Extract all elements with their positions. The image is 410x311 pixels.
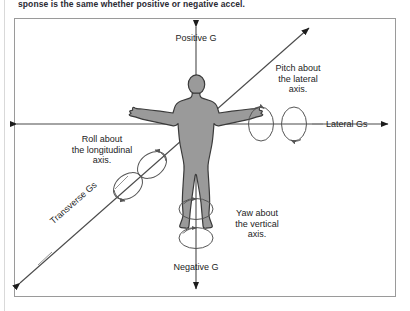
label-pitch-line1: Pitch about <box>259 63 337 74</box>
label-yaw-line3: axis. <box>219 229 295 240</box>
label-positive-g: Positive G <box>152 33 240 44</box>
label-lateral-gs: Lateral Gs <box>326 119 368 130</box>
label-pitch-line2: the lateral <box>259 74 337 85</box>
figure-page: sponse is the same whether positive or n… <box>0 0 410 311</box>
label-roll-line1: Roll about <box>52 134 152 145</box>
figure-head <box>188 75 204 94</box>
transverse-label-leader-b <box>115 176 128 189</box>
yaw-arrow-lower <box>183 228 197 234</box>
label-yaw-line1: Yaw about <box>219 208 295 219</box>
label-pitch-block: Pitch about the lateral axis. <box>259 63 337 95</box>
label-yaw-line2: the vertical <box>219 219 295 230</box>
label-roll-line2: the longitudinal <box>52 145 152 156</box>
label-yaw-block: Yaw about the vertical axis. <box>219 208 295 240</box>
transverse-label-leader-a <box>38 252 52 265</box>
label-roll-block: Roll about the longitudinal axis. <box>52 134 152 166</box>
label-pitch-line3: axis. <box>259 84 337 95</box>
label-negative-g: Negative G <box>152 262 240 273</box>
label-roll-line3: axis. <box>52 155 152 166</box>
